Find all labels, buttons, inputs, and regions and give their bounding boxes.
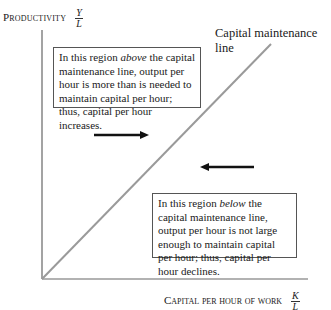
y-axis-label: Productivity Y L	[3, 8, 83, 29]
x-axis-label-text: Capital per hour of work	[164, 294, 282, 306]
x-axis-fraction: K L	[291, 291, 300, 310]
region-below-annotation: In this region below the capital mainten…	[152, 193, 297, 258]
y-fraction-denominator: L	[75, 19, 83, 29]
y-axis-label-text: Productivity	[3, 11, 66, 23]
annotation-text: In this region	[59, 51, 120, 63]
annotation-emphasis: above	[120, 51, 146, 63]
arrow-left-icon	[200, 163, 254, 171]
x-axis-label: Capital per hour of work K L	[164, 291, 300, 310]
capital-maintenance-line-label: Capital maintenance line	[215, 26, 331, 56]
arrow-right-icon	[94, 131, 149, 139]
y-axis-fraction: Y L	[75, 8, 83, 29]
annotation-emphasis: below	[219, 197, 245, 209]
x-fraction-denominator: L	[291, 302, 300, 310]
annotation-text: In this region	[158, 197, 219, 209]
region-above-annotation: In this region above the capital mainten…	[53, 47, 201, 108]
